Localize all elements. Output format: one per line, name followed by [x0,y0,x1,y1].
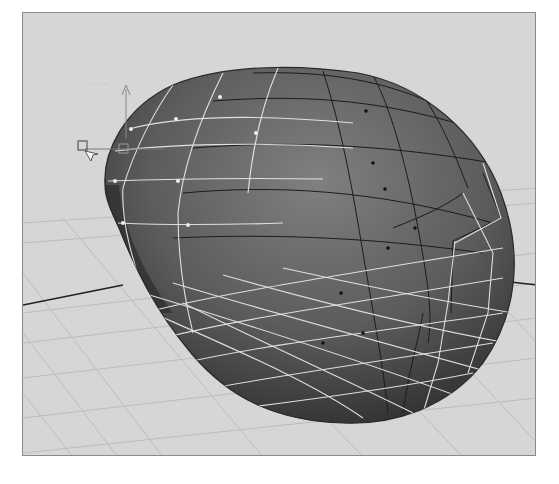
pivot-label: ······ [89,79,110,89]
world-axis-line [23,285,123,305]
3d-viewport[interactable]: ······ [22,12,536,456]
